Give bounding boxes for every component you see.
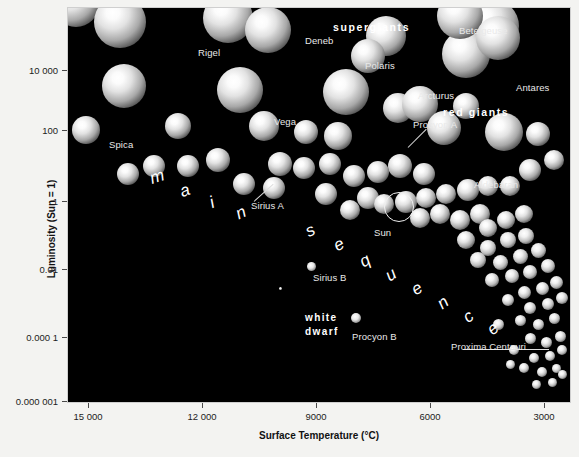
white-dwarf-star-icon [307, 262, 316, 271]
star-icon [536, 282, 549, 295]
x-tick [316, 402, 317, 408]
star-icon [340, 200, 360, 220]
y-tick-label: 100 [42, 125, 58, 136]
region-label-dwarf: dwarf [305, 327, 339, 337]
star-icon [532, 380, 541, 389]
star-icon [525, 333, 536, 344]
star-icon [541, 259, 555, 273]
region-label-red-giants: red giants [443, 107, 509, 118]
star-icon [315, 183, 337, 205]
star-icon [485, 273, 499, 287]
y-axis: 10 000 100 1 0.01 0.000 1 0.000 001 [0, 8, 68, 402]
x-tick-label: 9000 [305, 411, 326, 422]
star-icon [319, 153, 341, 175]
star-icon [268, 152, 292, 176]
star-label-Antares: Antares [516, 83, 549, 93]
star-icon [529, 353, 539, 363]
hr-diagram-figure: Luminosity (Sun = 1) 10 000 100 1 0.01 0… [0, 0, 579, 457]
white-dwarf-star-icon [351, 313, 361, 323]
star-icon [541, 337, 552, 348]
main-sequence-letter: e [484, 319, 502, 338]
star-icon [556, 292, 568, 304]
star-icon [442, 30, 490, 78]
star-icon [470, 252, 486, 268]
star-icon [413, 163, 435, 185]
star-label-Procyon-B: Procyon B [352, 332, 397, 342]
star-icon [524, 302, 536, 314]
star-label-Aldebaran: Aldebaran [474, 180, 518, 190]
y-tick-label: 0.000 1 [26, 332, 58, 343]
star-icon [324, 122, 352, 150]
main-sequence-letter: q [356, 251, 373, 270]
star-icon [557, 345, 567, 355]
star-icon [552, 364, 561, 373]
main-sequence-letter: n [434, 293, 452, 312]
star-icon [367, 161, 389, 183]
star-icon [206, 148, 230, 172]
main-sequence-letter: a [177, 181, 192, 200]
x-tick [544, 402, 545, 408]
star-icon [217, 67, 263, 113]
star-icon [293, 157, 315, 179]
star-icon [203, 8, 253, 43]
star-icon [555, 331, 566, 342]
star-icon [531, 243, 546, 258]
x-axis-title: Surface Temperature (°C) [68, 430, 570, 441]
circle-highlight-icon [384, 192, 414, 222]
main-sequence-letter: s [303, 221, 318, 240]
y-tick-label: 0.01 [40, 264, 59, 275]
main-sequence-letter: u [382, 265, 399, 284]
star-icon [518, 286, 531, 299]
star-icon [518, 228, 534, 244]
main-sequence-letter: e [408, 279, 425, 298]
star-icon [542, 298, 554, 310]
star-icon [388, 154, 412, 178]
star-icon [233, 173, 255, 195]
star-label-Sirius-B: Sirius B [313, 273, 347, 283]
star-icon [515, 315, 526, 326]
star-icon [500, 232, 516, 248]
plot-area: mainsequence supergiantsred giantswhited… [68, 8, 570, 402]
star-icon [545, 351, 555, 361]
star-icon [497, 211, 515, 229]
x-tick [202, 402, 203, 408]
star-icon [549, 313, 560, 324]
star-label-Spica: Spica [109, 140, 133, 150]
region-label-supergiants: supergiants [333, 22, 410, 33]
star-label-Rigel: Rigel [198, 48, 220, 58]
leader-line-icon [408, 129, 427, 148]
star-icon [506, 360, 515, 369]
star-icon [476, 16, 520, 60]
star-icon [357, 187, 379, 209]
star-icon [548, 378, 557, 387]
main-sequence-letter: e [331, 235, 347, 254]
star-icon [68, 8, 99, 27]
y-tick-label: 1 [53, 196, 58, 207]
star-icon [479, 219, 497, 237]
star-label-Betelgeuse: Betelgeuse [459, 26, 508, 36]
star-icon [493, 255, 508, 270]
y-tick-label: 0.000 001 [16, 396, 58, 407]
star-icon [544, 150, 564, 170]
x-tick-label: 12 000 [187, 411, 216, 422]
star-icon [245, 8, 291, 53]
star-icon [436, 184, 456, 204]
star-icon [533, 319, 544, 330]
star-icon [450, 210, 470, 230]
y-tick-label: 10 000 [29, 65, 58, 76]
main-sequence-letter: i [207, 194, 217, 211]
main-sequence-letter: n [233, 203, 249, 222]
star-icon [416, 188, 436, 208]
x-tick-label: 15 000 [73, 411, 102, 422]
star-icon [72, 116, 100, 144]
star-icon [519, 159, 541, 181]
star-icon [430, 204, 450, 224]
star-label-Sirius-A: Sirius A [251, 201, 284, 211]
star-label-Arcturus: Arcturus [418, 91, 454, 101]
star-icon [165, 113, 191, 139]
star-label-Vega: Vega [274, 117, 296, 127]
region-label-white: white [305, 313, 338, 323]
star-icon [526, 122, 550, 146]
star-icon [485, 113, 523, 151]
star-icon [177, 155, 199, 177]
